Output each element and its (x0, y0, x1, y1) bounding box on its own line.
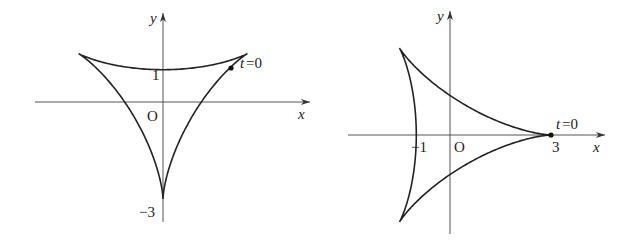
left-origin-label: O (147, 108, 158, 124)
left-t0-point (228, 65, 233, 70)
figure: y x O 1 −3 t =0 y x O −1 3 t =0 (0, 0, 636, 240)
right-y-label: y (435, 8, 444, 24)
right-origin-label: O (454, 139, 465, 155)
left-graph: y x O 1 −3 t =0 (35, 10, 310, 222)
left-tick-neg3: −3 (139, 204, 155, 220)
left-x-label: x (297, 106, 305, 122)
right-x-label: x (592, 139, 600, 155)
right-t0-eq: =0 (562, 116, 578, 132)
right-tick-3: 3 (552, 139, 560, 155)
left-t0-label: t (240, 55, 245, 71)
left-t0-eq: =0 (246, 55, 262, 71)
right-t0-point (548, 132, 553, 137)
left-tick-1: 1 (152, 67, 160, 83)
right-graph: y x O −1 3 t =0 (348, 8, 605, 234)
right-t0-label: t (556, 116, 561, 132)
right-tick-neg1: −1 (411, 139, 427, 155)
left-y-label: y (148, 10, 157, 26)
